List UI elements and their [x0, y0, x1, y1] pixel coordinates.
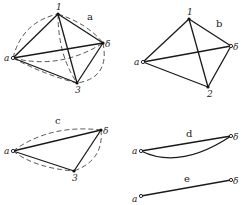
- panel-c: a δ 3 c: [4, 115, 108, 183]
- node-a: [11, 56, 14, 59]
- panel-label-c: c: [55, 115, 61, 126]
- graph-diagrams: 1 δ a 3 a 1 δ a 2 b a δ 3 c: [0, 0, 241, 205]
- edge-b-3: [77, 43, 103, 83]
- panel-b: 1 δ a 2 b: [134, 7, 238, 99]
- node-label-b: δ: [233, 42, 238, 52]
- edge-a-2: [143, 62, 208, 87]
- panel-label-e: e: [184, 173, 190, 184]
- node-label-3: 3: [75, 85, 81, 95]
- node-a: [139, 194, 142, 197]
- node-label-a: a: [4, 146, 9, 156]
- edge-a-b: [13, 130, 101, 151]
- edge-b-2: [208, 46, 231, 87]
- node-label-b: δ: [233, 176, 238, 186]
- node-a: [141, 60, 144, 63]
- panel-e: a δ e: [132, 173, 238, 204]
- panel-label-b: b: [216, 18, 222, 29]
- node-label-a: a: [134, 57, 139, 67]
- node-label-a: a: [132, 194, 137, 204]
- node-label-3: 3: [72, 173, 78, 183]
- node-a: [11, 149, 14, 152]
- panel-d: a δ d: [132, 128, 238, 158]
- panel-a: 1 δ a 3 a: [4, 2, 110, 95]
- panel-label-a: a: [87, 11, 93, 22]
- node-label-b: δ: [103, 126, 108, 136]
- panel-label-d: d: [186, 128, 193, 139]
- node-label-1: 1: [56, 2, 62, 12]
- node-label-b: δ: [105, 39, 110, 49]
- edge-b-3: [74, 130, 101, 171]
- node-label-b: δ: [233, 132, 238, 142]
- node-label-a: a: [132, 146, 137, 156]
- node-label-a: a: [4, 53, 9, 63]
- edge-a-b: [143, 46, 231, 62]
- node-label-1: 1: [187, 7, 193, 17]
- node-1: [187, 17, 190, 20]
- curved-edge-a-b: [141, 136, 231, 158]
- node-a: [139, 149, 142, 152]
- node-label-2: 2: [206, 89, 213, 99]
- edge-a-3: [13, 151, 74, 171]
- node-1: [56, 12, 59, 15]
